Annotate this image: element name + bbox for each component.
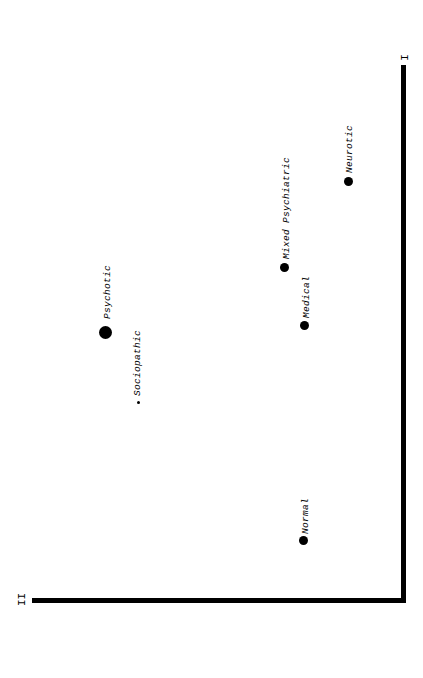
label-medical: Medical — [302, 276, 312, 318]
point-medical — [300, 321, 309, 330]
point-psychotic — [99, 326, 112, 339]
point-neurotic — [344, 177, 353, 186]
label-mixed-psychiatric: Mixed Psychiatric — [282, 157, 292, 259]
label-sociopathic: Sociopathic — [133, 330, 143, 396]
label-neurotic: Neurotic — [345, 125, 355, 173]
label-psychotic: Psychotic — [103, 265, 113, 319]
point-sociopathic — [137, 401, 140, 404]
axis-i-label: I — [400, 53, 411, 63]
point-mixed-psychiatric — [280, 263, 289, 272]
point-normal — [299, 536, 308, 545]
label-normal: Normal — [301, 498, 311, 534]
axis-ii-label: II — [17, 592, 28, 608]
axis-ii-line — [32, 598, 406, 603]
axis-i-line — [401, 65, 406, 603]
